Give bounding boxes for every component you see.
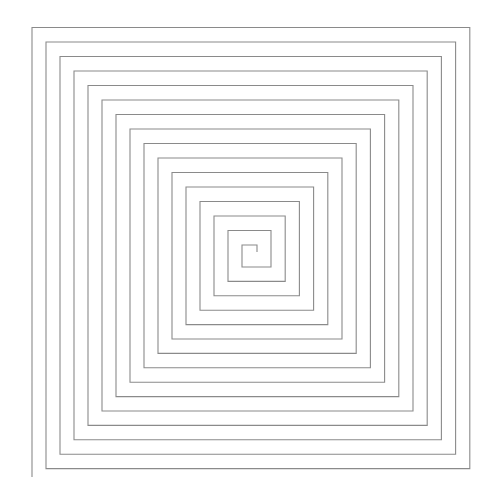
spiral-canvas bbox=[0, 0, 492, 498]
